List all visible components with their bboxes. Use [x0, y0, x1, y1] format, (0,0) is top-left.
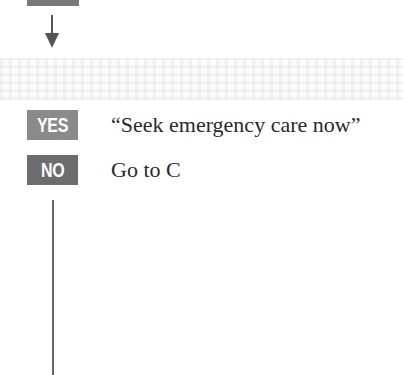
yes-outcome-text: “Seek emergency care now” [111, 112, 360, 138]
yes-badge: YES [27, 110, 78, 140]
no-badge-label: NO [41, 159, 65, 182]
arrow-head [45, 33, 59, 48]
previous-step-text: Go to B [111, 0, 181, 6]
no-badge-label-wrap: NO [27, 155, 78, 185]
previous-step-row: Go to B [0, 0, 403, 6]
no-badge: NO [27, 155, 78, 185]
yes-badge-label-wrap: YES [27, 110, 78, 140]
no-outcome-text: Go to C [111, 157, 181, 183]
vertical-connector-line [52, 200, 54, 375]
previous-step-badge [27, 0, 79, 6]
section-separator-band [0, 58, 403, 100]
arrow-shaft [51, 15, 53, 35]
yes-badge-label: YES [37, 114, 68, 137]
